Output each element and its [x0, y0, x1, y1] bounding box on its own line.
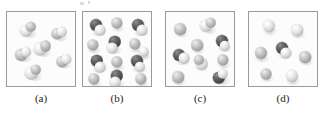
panel-label-2: (b): [82, 92, 152, 105]
panel-content: [249, 12, 317, 86]
atom-gray: [261, 69, 272, 80]
atom-light: [61, 54, 71, 64]
atom-gray: [25, 22, 35, 32]
atom-gray: [135, 73, 146, 84]
panel-b: [82, 11, 152, 87]
panel-label-3: (c): [165, 92, 235, 105]
atom-light: [21, 47, 31, 57]
molecular-diagram-figure: (a)(b)(c)(d): [0, 0, 323, 113]
atom-light: [263, 20, 275, 32]
atom-gray: [191, 39, 203, 51]
atom-gray: [40, 41, 51, 52]
atom-light: [280, 47, 291, 58]
atom-gray: [194, 55, 204, 65]
atom-gray: [299, 51, 311, 63]
atom-light: [135, 62, 145, 72]
atom-gray: [217, 54, 228, 65]
atom-gray: [31, 65, 41, 75]
panel-label-1: (a): [6, 92, 76, 105]
atom-gray: [206, 18, 216, 28]
top-text-artifact: [72, 1, 132, 7]
panel-c: [165, 11, 235, 87]
atom-gray: [172, 71, 184, 83]
atom-light: [291, 24, 303, 36]
panel-content: [166, 12, 234, 86]
atom-light: [95, 62, 106, 73]
panel-d: [248, 11, 318, 87]
atom-light: [110, 77, 121, 87]
panel-a: [6, 11, 76, 87]
atom-light: [220, 41, 230, 51]
atom-gray: [88, 73, 99, 84]
atom-gray: [174, 23, 186, 35]
atom-light: [286, 70, 298, 82]
atom-light: [57, 27, 67, 37]
atom-light: [137, 25, 148, 36]
panel-content: [83, 12, 151, 86]
atom-light: [95, 25, 106, 36]
panel-content: [7, 12, 75, 86]
atom-light: [107, 43, 118, 54]
atom-light: [179, 53, 190, 64]
atom-gray: [255, 47, 267, 59]
atom-gray: [87, 39, 98, 50]
atom-gray: [111, 56, 122, 67]
atom-light: [218, 69, 228, 79]
panel-label-4: (d): [248, 92, 318, 105]
atom-gray: [111, 17, 122, 28]
